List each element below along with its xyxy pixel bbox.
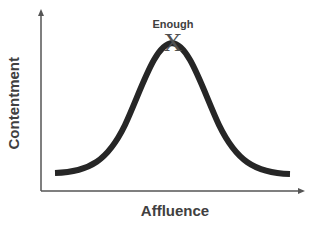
peak-marker: X: [158, 30, 188, 56]
x-axis-label: Affluence: [120, 202, 230, 219]
diagram-canvas: [0, 0, 310, 226]
y-axis-label: Contentment: [5, 60, 22, 150]
x-axis: [41, 188, 305, 194]
y-axis: [38, 9, 44, 191]
bell-curve: [55, 43, 290, 174]
